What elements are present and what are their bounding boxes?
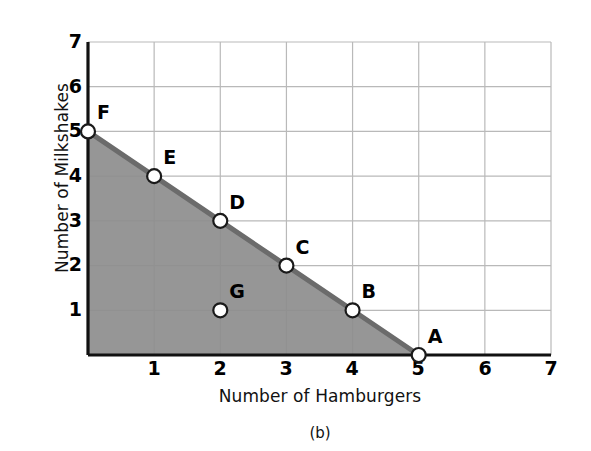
x-axis-label: Number of Hamburgers	[88, 386, 552, 406]
point-label-a: A	[428, 325, 443, 347]
point-label-b: B	[362, 280, 376, 302]
plot-area	[0, 0, 591, 451]
point-label-c: C	[295, 236, 309, 258]
point-label-g: G	[229, 280, 245, 302]
point-label-e: E	[163, 146, 176, 168]
point-label-f: F	[97, 101, 110, 123]
figure-caption: (b)	[88, 424, 552, 442]
point-label-d: D	[229, 191, 245, 213]
ppf-figure: Number of Milkshakes 7 6 5 4 3 2 1 1 2 3…	[0, 0, 591, 451]
